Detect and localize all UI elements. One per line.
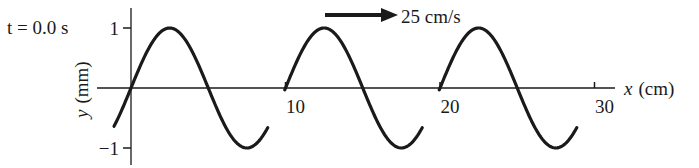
axes [97, 8, 615, 165]
y-axis-unit: (mm) [71, 61, 93, 103]
x-axis-var: x [623, 78, 633, 99]
x-tick-label: 20 [441, 96, 460, 117]
x-axis-label: x(cm) [623, 78, 674, 100]
arrow-head-icon [381, 8, 398, 22]
y-axis-var: y [71, 109, 92, 120]
x-tick-label: 30 [595, 96, 614, 117]
velocity-arrow [325, 8, 398, 22]
y-axis-label: y(mm) [71, 61, 93, 120]
time-annotation: t = 0.0 s [7, 17, 68, 38]
y-tick-label: −1 [99, 138, 119, 159]
wave-chart: 1020301−1 t = 0.0 s 25 cm/s x(cm) y(mm) [0, 0, 699, 168]
y-tick-label: 1 [110, 18, 120, 39]
velocity-label: 25 cm/s [401, 6, 461, 27]
x-axis-unit: (cm) [638, 78, 674, 100]
x-tick-label: 10 [286, 96, 305, 117]
